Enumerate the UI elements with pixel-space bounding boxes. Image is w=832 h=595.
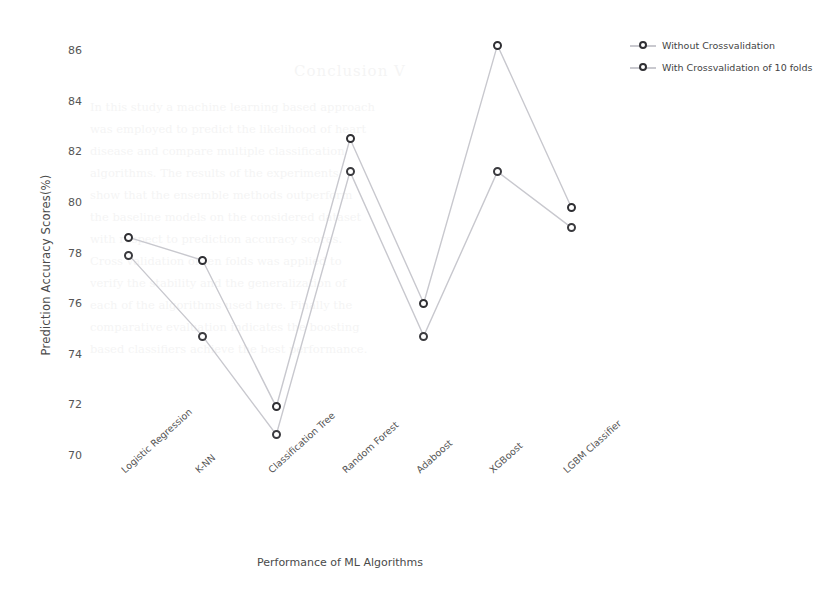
legend-marker-icon [639,41,647,49]
chart-legend: Without CrossvalidationWith Crossvalidat… [0,0,832,595]
plot-area: Conclusion V In this study a machine lea… [0,0,832,595]
legend-marker-icon [639,63,647,71]
line-marker-icon [630,67,656,69]
legend-label: With Crossvalidation of 10 folds [662,62,812,73]
legend-item[interactable]: Without Crossvalidation [630,40,775,51]
legend-label: Without Crossvalidation [662,40,775,51]
legend-item[interactable]: With Crossvalidation of 10 folds [630,62,812,73]
line-marker-icon [630,45,656,47]
chart-figure: Conclusion V In this study a machine lea… [0,0,832,595]
